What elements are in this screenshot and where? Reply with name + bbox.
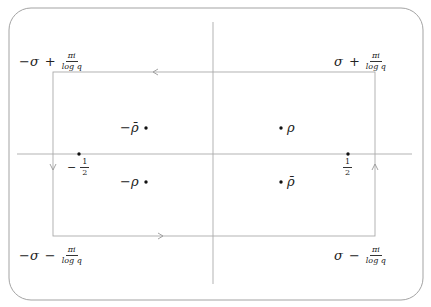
fraction-numerator: πi [66,52,78,62]
fraction-denominator: log q [366,62,386,71]
fraction: πi log q [62,246,82,265]
fraction-numerator: πi [66,246,78,256]
fraction-denominator: 2 [345,168,350,177]
corner-label-bottom-right: σ − πi log q [334,246,386,265]
point-rho [279,126,282,129]
corner-label-top-left: −σ + πi log q [19,52,82,71]
point-neg-rho [144,180,147,183]
corner-op: + [347,55,362,68]
half-sign: − [67,162,76,173]
label-pos-half: 1 2 [343,158,352,177]
label-rho-bar: ρ̄ [287,175,295,188]
corner-op: − [347,249,362,262]
fraction-denominator: log q [366,256,386,265]
corner-sign: −σ [19,55,39,68]
fraction-numerator: πi [370,246,382,256]
corner-sign: −σ [19,249,39,262]
corner-sign: σ [334,55,343,68]
point-neg-rho-bar [144,126,147,129]
fraction-denominator: 2 [82,168,87,177]
point-neg-half [77,152,80,155]
corner-sign: σ [334,249,343,262]
fraction: πi log q [366,52,386,71]
fraction-numerator: 1 [343,158,352,168]
corner-label-top-right: σ + πi log q [334,52,386,71]
fraction-denominator: log q [62,62,82,71]
fraction: 1 2 [80,158,89,177]
fraction: πi log q [366,246,386,265]
point-pos-half [346,152,349,155]
label-neg-rho-bar: −ρ̄ [120,121,139,134]
fraction: πi log q [62,52,82,71]
fraction: 1 2 [343,158,352,177]
corner-op: + [43,55,58,68]
label-neg-half: − 1 2 [67,158,89,177]
label-rho: ρ [287,121,295,134]
corner-op: − [43,249,58,262]
label-neg-rho: −ρ [120,175,139,188]
corner-label-bottom-left: −σ − πi log q [19,246,82,265]
fraction-denominator: log q [62,256,82,265]
point-rho-bar [279,180,282,183]
fraction-numerator: 1 [80,158,89,168]
fraction-numerator: πi [370,52,382,62]
